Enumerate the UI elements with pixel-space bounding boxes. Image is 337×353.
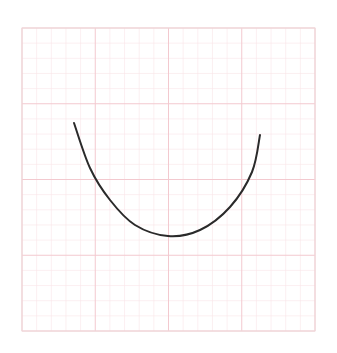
graph-figure bbox=[0, 0, 337, 353]
graph-paper-canvas bbox=[0, 0, 337, 353]
